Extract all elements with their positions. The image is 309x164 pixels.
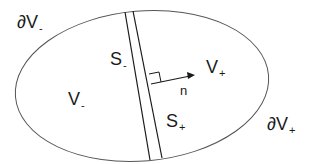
surface-minus-label: S-: [110, 50, 127, 68]
surface-plus-label: S+: [166, 112, 185, 130]
normal-arrow-head-icon: [187, 72, 195, 79]
surface-plus-sub: +: [179, 121, 185, 133]
boundary-minus-main: ∂V: [17, 12, 38, 32]
volume-plus-main: V: [206, 57, 218, 77]
boundary-plus-main: ∂V: [267, 114, 288, 134]
volume-minus-main: V: [68, 89, 80, 109]
boundary-plus-label: ∂V+: [267, 115, 295, 133]
normal-label: n: [180, 84, 187, 97]
volume-plus-sub: +: [219, 67, 225, 79]
diagram-graphics: [0, 0, 309, 164]
surface-minus-sub: -: [123, 59, 127, 71]
boundary-minus-label: ∂V-: [17, 13, 43, 31]
volume-minus-sub: -: [81, 99, 85, 111]
boundary-minus-sub: -: [39, 22, 43, 34]
volume-minus-label: V-: [68, 90, 85, 108]
right-angle-marker: [149, 72, 161, 82]
volume-boundary-ellipse: [9, 0, 275, 164]
boundary-plus-sub: +: [289, 124, 295, 136]
volume-plus-label: V+: [206, 58, 225, 76]
surface-minus-main: S: [110, 49, 122, 69]
diagram-canvas: ∂V- S- V- V+ n S+ ∂V+: [0, 0, 309, 164]
surface-plus-main: S: [166, 111, 178, 131]
